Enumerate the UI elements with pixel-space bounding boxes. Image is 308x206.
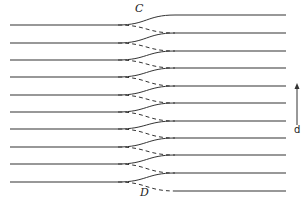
- solid-branch: [118, 51, 175, 60]
- dashed-branch: [118, 95, 175, 103]
- solid-branch: [118, 173, 175, 182]
- solid-branch: [118, 68, 175, 77]
- dashed-branch: [118, 25, 175, 33]
- solid-branch: [118, 155, 175, 164]
- solid-branch: [118, 33, 175, 43]
- label-d-arrow: d: [294, 124, 300, 135]
- dashed-branch: [118, 60, 175, 68]
- solid-branch: [118, 121, 175, 129]
- solid-branch: [118, 138, 175, 147]
- streamline-diagram: [0, 0, 308, 206]
- label-c: C: [135, 2, 143, 15]
- dashed-branch: [118, 77, 175, 86]
- dashed-branch: [118, 129, 175, 138]
- dashed-branch: [118, 112, 175, 121]
- label-d: D: [140, 186, 149, 199]
- solid-branch: [118, 15, 175, 25]
- dashed-branch: [118, 164, 175, 173]
- arrow-up-icon: [295, 83, 300, 89]
- dashed-branch: [118, 43, 175, 51]
- solid-branch: [118, 103, 175, 112]
- solid-branch: [118, 86, 175, 95]
- dashed-branch: [118, 147, 175, 155]
